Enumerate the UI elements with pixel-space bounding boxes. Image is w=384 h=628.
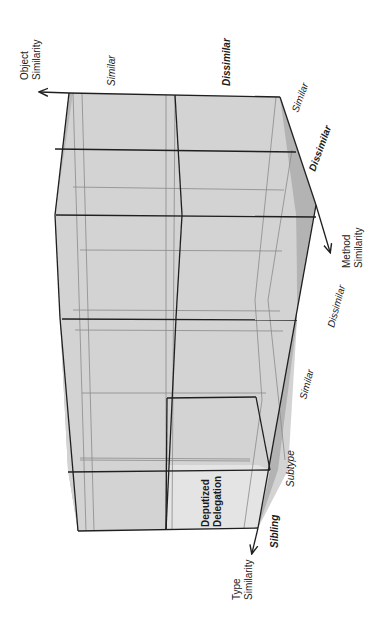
type-subtype-label: Subtype [285,450,296,487]
cube-body [55,93,316,531]
method-similar-label: Similar [297,368,316,401]
object-label-line1: Object [19,51,30,80]
method-top-similar-label: Similar [290,81,311,114]
type-label-line2: Similarity [243,559,254,600]
method-label-line2: Similarity [353,227,364,268]
method-similarity-axis-label: Method Similarity [341,227,364,268]
object-similarity-arrow [40,92,69,93]
type-sibling-label: Sibling [269,515,280,548]
object-similar-label: Similar [106,55,117,86]
type-similarity-axis-label: Type Similarity [231,559,254,600]
cell-label-line2: Delegation [212,476,223,527]
cube-diagram: Object Similarity Similar Dissimilar Sim… [0,0,384,628]
deputized-delegation-label: Deputized Delegation [200,476,223,527]
method-similarity-arrow [316,205,330,252]
method-top-dissimilar-label: Dissimilar [307,123,334,173]
object-dissimilar-label: Dissimilar [221,37,232,86]
cell-label-line1: Deputized [200,479,211,527]
type-similarity-arrow [252,528,258,553]
object-label-line2: Similarity [31,39,42,80]
method-label-line1: Method [341,235,352,268]
object-similarity-axis-label: Object Similarity [19,39,42,80]
method-dissimilar-label: Dissimilar [325,283,347,328]
type-label-line1: Type [231,578,242,600]
